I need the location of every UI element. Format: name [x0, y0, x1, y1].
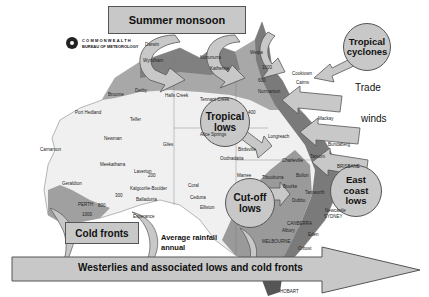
climate-diagram: COMMONWEALTH BUREAU OF METEOROLOGY Summe…	[0, 0, 429, 297]
city-label: BRISBANE	[337, 164, 360, 169]
city-label: PERTH	[78, 202, 93, 207]
city-label: Tibooburra	[262, 175, 284, 180]
city-label: Tennant Creek	[200, 97, 229, 102]
city-label: Orbost	[298, 246, 312, 251]
city-label: Halls Creek	[165, 93, 188, 98]
city-label: Coral	[188, 183, 199, 188]
city-label: Newman	[104, 136, 122, 141]
cut-off-lows-line2: lows	[234, 203, 267, 214]
city-label: Geraldton	[62, 181, 82, 186]
city-label: Carnarvon	[40, 147, 61, 152]
winds-label: winds	[361, 113, 387, 124]
city-label: Mackay	[318, 116, 334, 121]
city-label: Derby	[135, 88, 147, 93]
city-label: Elliston	[200, 205, 215, 210]
city-label: CANBERRA	[287, 221, 312, 226]
isohyet-label: 600	[258, 78, 266, 83]
city-label: Ceduna	[190, 195, 206, 200]
east-coast-lows-line3: lows	[344, 196, 369, 206]
city-label: Weipa	[250, 50, 263, 55]
city-label: Tamworth	[305, 190, 325, 195]
cold-fronts-label: Cold fronts	[75, 228, 128, 239]
city-label: Giles	[163, 142, 173, 147]
city-label: SYDNEY	[324, 214, 343, 219]
tropical-cyclones-circle: Tropical cyclones	[343, 23, 391, 71]
map-caption-line2: annual	[161, 243, 185, 252]
city-label: Bundaberg	[328, 142, 350, 147]
map-caption-line1: Average rainfall	[161, 233, 217, 242]
city-label: Port Hedland	[75, 110, 101, 115]
tropical-lows-line1: Tropical	[206, 111, 244, 122]
city-label: Normanton	[258, 89, 280, 94]
city-label: Cooktown	[292, 71, 312, 76]
city-label: Katherine	[210, 66, 229, 71]
city-label: Longreach	[268, 134, 289, 139]
city-label: Bourke	[283, 184, 297, 189]
cut-off-lows-circle: Cut-off lows	[225, 178, 275, 228]
cold-fronts-box: Cold fronts	[65, 222, 139, 244]
city-label: Cairns	[296, 80, 309, 85]
city-label: Wyndham	[143, 58, 163, 63]
city-label: Kununurra	[200, 55, 221, 60]
city-label: Alice Springs	[200, 132, 226, 137]
isohyet-label: 300	[115, 193, 123, 198]
tropical-lows-circle: Tropical lows	[200, 97, 250, 147]
cut-off-lows-line1: Cut-off	[234, 192, 267, 203]
city-label: Balladonia	[136, 197, 157, 202]
isohyet-label: 800	[98, 203, 106, 208]
summer-monsoon-label: Summer monsoon	[129, 14, 226, 26]
logo-line1: COMMONWEALTH	[82, 38, 132, 43]
city-label: Kalgoorlie-Boulder	[130, 186, 167, 191]
city-label: MELBOURNE	[262, 239, 291, 244]
city-label: Taroom	[310, 154, 325, 159]
city-label: Meekatharra	[100, 162, 125, 167]
city-label: Oodnadatta	[220, 156, 244, 161]
trade-label: Trade	[355, 82, 381, 93]
isohyet-label: 400	[248, 110, 256, 115]
city-label: Albury	[282, 228, 295, 233]
summer-monsoon-box: Summer monsoon	[108, 6, 246, 34]
isohyet-label: 1000	[262, 65, 272, 70]
city-label: Marree	[237, 173, 251, 178]
city-label: Esperance	[133, 214, 155, 219]
city-label: Birdsville	[238, 147, 256, 152]
city-label: Dubbo	[292, 198, 305, 203]
isohyet-label: 200	[148, 173, 156, 178]
city-label: Broome	[108, 92, 124, 97]
logo-line2: BUREAU OF METEOROLOGY	[82, 44, 138, 49]
tropical-cyclones-line2: cyclones	[347, 47, 388, 57]
city-label: Newcastle	[325, 208, 346, 213]
city-label: HOBART	[280, 289, 299, 294]
city-label: Telfer	[130, 117, 141, 122]
city-label: Darwin	[145, 42, 159, 47]
city-label: Eden	[308, 232, 319, 237]
city-label: Charleville	[282, 158, 303, 163]
westerlies-label: Westerlies and associated lows and cold …	[78, 262, 303, 273]
isohyet-label: 1000	[82, 212, 92, 217]
city-label: Bollon	[296, 173, 309, 178]
